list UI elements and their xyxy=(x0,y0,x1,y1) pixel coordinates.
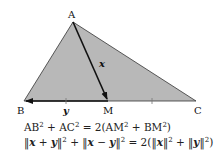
term: AB xyxy=(24,121,39,133)
operator: + xyxy=(67,136,82,148)
operator: = 2( xyxy=(79,121,105,133)
vertex-label-b: B xyxy=(17,105,24,116)
term: AC xyxy=(59,121,75,133)
triangle-abc xyxy=(24,22,196,101)
operator: + xyxy=(173,136,188,148)
operator: ) xyxy=(167,121,171,133)
term: BM xyxy=(144,121,162,133)
vertex-label-c: C xyxy=(194,105,202,116)
vector-label-y: y xyxy=(62,105,70,116)
operator: ) xyxy=(209,136,213,148)
operator: + xyxy=(44,121,59,133)
operator: + xyxy=(36,136,51,148)
operator: + xyxy=(128,121,143,133)
vector-label-x: x xyxy=(98,58,106,69)
vertex-label-m: M xyxy=(103,105,113,116)
formula-parallelogram-median: AB2 + AC2 = 2(AM2 + BM2) xyxy=(24,121,171,133)
vertex-label-a: A xyxy=(67,9,76,20)
operator: = 2( xyxy=(125,136,151,148)
formula-parallelogram-law: ‖x + y‖2 + ‖x − y‖2 = 2(‖x‖2 + ‖y‖2) xyxy=(24,136,213,148)
triangle-diagram: A B M C x y xyxy=(0,0,215,120)
operator: − xyxy=(94,136,109,148)
term: AM xyxy=(106,121,124,133)
